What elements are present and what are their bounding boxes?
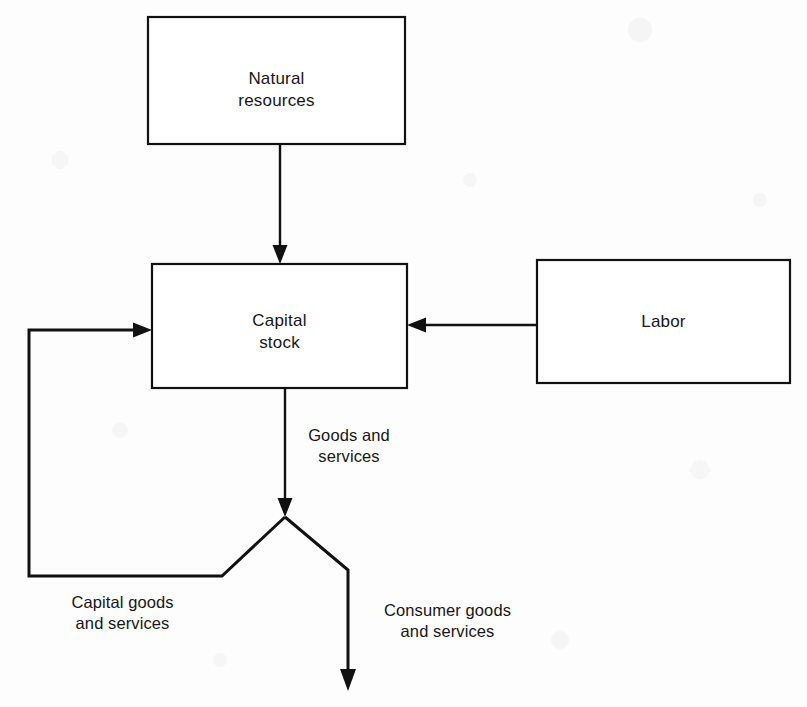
arrow-head-down-consumer-goods — [340, 669, 356, 691]
edge-capital-stock-to-split-point — [278, 388, 293, 517]
edge-labor-to-capital-stock — [407, 318, 537, 333]
node-labor[interactable] — [537, 260, 790, 383]
arrow-head-down-to-capital-stock — [273, 245, 288, 264]
arrow-head-right-into-capital-stock — [133, 323, 152, 338]
node-capital-stock[interactable] — [152, 264, 407, 388]
edge-consumer-goods-output — [285, 517, 356, 691]
diagram-canvas: Natural resources Capital stock Labor Go… — [0, 0, 807, 707]
arrow-head-left-to-capital-stock — [407, 318, 426, 333]
edge-natural-resources-to-capital-stock — [273, 144, 288, 264]
node-natural-resources[interactable] — [148, 17, 405, 144]
arrow-head-down-to-split-point — [278, 498, 293, 517]
